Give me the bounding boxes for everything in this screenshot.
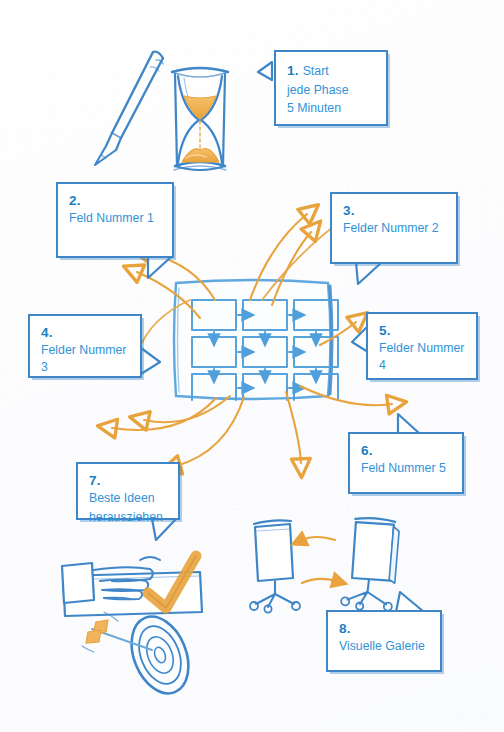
callout-1-text2: jede Phase bbox=[287, 82, 375, 99]
callout-8[interactable]: 8. Visuelle Galerie bbox=[326, 610, 442, 672]
callout-4[interactable]: 4. Felder Nummer 3 bbox=[28, 314, 142, 378]
pen-and-hourglass-sketch bbox=[95, 52, 228, 170]
callout-3[interactable]: 3. Felder Nummer 2 bbox=[330, 192, 458, 264]
callout-3-text: Felder Nummer 2 bbox=[343, 220, 445, 237]
callout-8-number: 8. bbox=[339, 621, 429, 636]
callout-6[interactable]: 6. Feld Nummer 5 bbox=[348, 432, 464, 494]
callout-5-number: 5. bbox=[379, 323, 465, 338]
flipchart-exchange-sketch bbox=[250, 515, 402, 613]
callout-6-text: Feld Nummer 5 bbox=[361, 460, 451, 477]
hand-checkmark-sketch bbox=[62, 556, 202, 616]
callout-1-text: Start bbox=[303, 64, 329, 78]
callout-2[interactable]: 2. Feld Nummer 1 bbox=[56, 182, 174, 258]
callout-2-number: 2. bbox=[69, 193, 161, 208]
callout-1-text3: 5 Minuten bbox=[287, 100, 375, 117]
callout-1[interactable]: 1.Start jede Phase 5 Minuten bbox=[274, 50, 388, 126]
callout-2-text: Feld Nummer 1 bbox=[69, 210, 161, 227]
dart-target-sketch bbox=[82, 608, 199, 702]
callout-3-number: 3. bbox=[343, 203, 445, 218]
callout-7[interactable]: 7. Beste Ideen herausziehen bbox=[76, 462, 180, 520]
callout-5[interactable]: 5. Felder Nummer 4 bbox=[366, 312, 478, 380]
grid-3x3-sketch bbox=[174, 280, 338, 400]
callout-8-text: Visuelle Galerie bbox=[339, 638, 429, 655]
callout-5-text: Felder Nummer 4 bbox=[379, 340, 465, 373]
callout-1-number: 1. bbox=[287, 63, 299, 78]
callout-4-text: Felder Nummer 3 bbox=[41, 342, 129, 375]
callout-7-text: Beste Ideen bbox=[89, 490, 167, 507]
callout-4-number: 4. bbox=[41, 325, 129, 340]
callout-7-text2: herausziehen bbox=[89, 509, 167, 526]
callout-7-number: 7. bbox=[89, 473, 167, 488]
callout-6-number: 6. bbox=[361, 443, 451, 458]
